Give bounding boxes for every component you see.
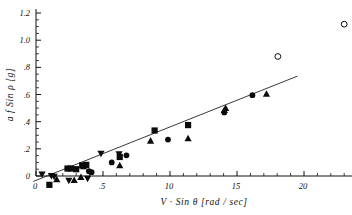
y-tick-label: .6: [24, 90, 31, 100]
x-tick-label: 20: [299, 181, 308, 191]
x-axis-title: V · Sin θ [rad / sec]: [161, 197, 248, 207]
marker-circle: [165, 137, 171, 143]
series-open-circles: [275, 21, 347, 59]
marker-triangle-up: [147, 137, 154, 144]
marker-square: [46, 182, 52, 188]
marker-circle-open: [341, 21, 347, 27]
marker-triangle-down: [65, 178, 72, 185]
y-tick-label: .4: [24, 117, 31, 127]
marker-triangle-up: [116, 162, 123, 169]
marker-triangle-down: [84, 176, 91, 183]
marker-square: [185, 122, 191, 128]
marker-square: [151, 127, 157, 133]
axes: [36, 9, 352, 176]
marker-square: [73, 166, 79, 172]
x-tick-label: 10: [165, 181, 174, 191]
marker-triangle-up: [71, 176, 78, 183]
series-circles: [86, 92, 255, 175]
x-tick-label: 15: [232, 181, 241, 191]
marker-triangle-up: [77, 173, 84, 180]
y-tick-label: 0: [26, 171, 31, 181]
marker-circle: [250, 92, 256, 98]
y-tick-label: .8: [24, 62, 31, 72]
marker-circle: [124, 152, 130, 158]
y-tick-label: .2: [24, 144, 31, 154]
y-tick-label: 1.0: [19, 35, 30, 45]
y-tick-label: 1.2: [19, 8, 30, 18]
marker-square: [83, 162, 89, 168]
marker-circle-open: [275, 54, 281, 60]
x-tick-label: 0: [33, 181, 38, 191]
y-axis-title: a f Sin ρ [g]: [5, 68, 15, 122]
marker-circle: [89, 169, 95, 175]
marker-circle: [109, 160, 115, 166]
marker-triangle-up: [184, 135, 191, 142]
scatter-plot: 0.51015200.2.4.6.81.01.2V · Sin θ [rad /…: [0, 0, 352, 215]
marker-triangle-up: [263, 90, 270, 97]
x-tick-label: .5: [99, 181, 105, 191]
data-points: [38, 21, 347, 188]
marker-square: [68, 165, 74, 171]
figure-container: 0.51015200.2.4.6.81.01.2V · Sin θ [rad /…: [0, 0, 352, 215]
